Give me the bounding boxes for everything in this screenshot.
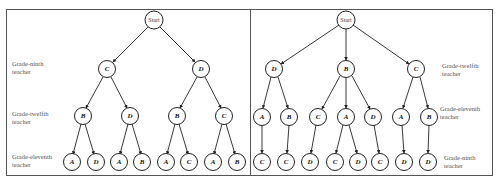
- node-label: D: [354, 158, 360, 166]
- node-label: A: [116, 158, 122, 166]
- node-label: D: [197, 65, 203, 73]
- left-node: B: [169, 108, 186, 125]
- left-node: B: [75, 108, 92, 125]
- node-label: C: [414, 65, 419, 73]
- node-label: B: [174, 112, 180, 120]
- node-label: C: [187, 158, 192, 166]
- right-leaf: D: [302, 154, 319, 171]
- node-label: D: [126, 112, 132, 120]
- node-label: B: [343, 65, 349, 73]
- node-label: B: [80, 112, 86, 120]
- level-label: Grade-twelfth: [442, 62, 479, 69]
- level-label: teacher: [444, 162, 464, 169]
- level-label: Grade-twelfth: [12, 110, 49, 117]
- right-node: A: [338, 109, 355, 126]
- right-node: A: [254, 109, 271, 126]
- left-start-node: Start: [145, 11, 163, 29]
- level-label: Grade-ninth: [444, 154, 476, 161]
- right-leaf: D: [420, 154, 437, 171]
- right-node: D: [365, 109, 382, 126]
- level-label: teacher: [12, 68, 32, 75]
- right-leaf: C: [327, 154, 344, 171]
- node-label: C: [105, 65, 110, 73]
- decision-tree-diagram: Start C D B D B C A D A B A C A B Grade-…: [0, 0, 500, 184]
- level-label: teacher: [12, 161, 32, 168]
- node-label: B: [426, 113, 432, 121]
- level-label: teacher: [442, 70, 462, 77]
- right-tree-edges: [262, 25, 429, 153]
- node-label: A: [259, 113, 265, 121]
- left-leaf: A: [205, 154, 222, 171]
- node-label: B: [139, 158, 145, 166]
- node-label: B: [286, 113, 292, 121]
- node-label: D: [424, 158, 430, 166]
- node-label: C: [378, 158, 383, 166]
- level-label: Grade-eleventh: [440, 105, 481, 112]
- start-label: Start: [340, 17, 352, 23]
- level-label: teacher: [12, 118, 32, 125]
- start-label: Start: [148, 17, 160, 23]
- level-label: Grade-ninth: [12, 60, 44, 67]
- right-node: C: [408, 61, 425, 78]
- right-leaf: C: [254, 154, 271, 171]
- node-label: D: [369, 113, 375, 121]
- left-leaf: D: [88, 154, 105, 171]
- left-tree: Start C D B D B C A D A B A C A B Grade-…: [12, 11, 246, 171]
- left-leaf: B: [134, 154, 151, 171]
- left-leaf: A: [111, 154, 128, 171]
- right-node: C: [310, 109, 327, 126]
- left-node: D: [122, 108, 139, 125]
- node-label: C: [333, 158, 338, 166]
- node-label: D: [92, 158, 98, 166]
- right-leaf: D: [396, 154, 413, 171]
- right-leaf: C: [372, 154, 389, 171]
- node-label: A: [210, 158, 216, 166]
- right-start-node: Start: [337, 11, 355, 29]
- node-label: A: [398, 113, 404, 121]
- right-node: A: [393, 109, 410, 126]
- left-leaf: A: [158, 154, 175, 171]
- node-label: D: [306, 158, 312, 166]
- node-label: C: [316, 113, 321, 121]
- right-node: B: [281, 109, 298, 126]
- right-node: B: [421, 109, 438, 126]
- level-label: teacher: [440, 113, 460, 120]
- left-leaf: B: [229, 154, 246, 171]
- node-label: A: [343, 113, 349, 121]
- node-label: A: [69, 158, 75, 166]
- right-leaf: D: [350, 154, 367, 171]
- node-label: C: [222, 112, 227, 120]
- node-label: D: [400, 158, 406, 166]
- node-label: C: [260, 158, 265, 166]
- left-panel-frame: [7, 10, 251, 176]
- right-node: B: [338, 61, 355, 78]
- level-label: Grade-eleventh: [12, 153, 53, 160]
- node-label: B: [234, 158, 240, 166]
- right-node: D: [266, 61, 283, 78]
- right-leaf: C: [278, 154, 295, 171]
- right-tree: Start D B C A B C A D A B C C D C D C D …: [254, 11, 481, 171]
- left-node: C: [99, 61, 116, 78]
- left-leaf: C: [181, 154, 198, 171]
- left-node: D: [193, 61, 210, 78]
- node-label: A: [163, 158, 169, 166]
- node-label: C: [284, 158, 289, 166]
- node-label: D: [270, 65, 276, 73]
- left-leaf: A: [64, 154, 81, 171]
- left-node: C: [216, 108, 233, 125]
- left-tree-edges: [73, 27, 235, 154]
